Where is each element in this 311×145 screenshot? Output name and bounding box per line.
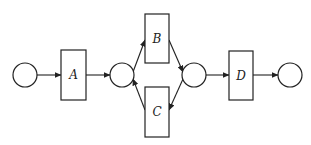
transition-C-label: C (152, 105, 161, 119)
arc-p3-to-C (169, 79, 183, 110)
arc-C-to-p2 (133, 79, 145, 110)
place-p1 (13, 63, 37, 87)
transition-B-label: B (152, 32, 162, 46)
petri-net-diagram: A B C D (0, 0, 311, 145)
transition-D-label: D (235, 69, 246, 83)
place-p3 (182, 63, 206, 87)
place-p2 (110, 63, 134, 87)
arc-B-to-p3 (169, 40, 183, 72)
transition-A-label: A (68, 68, 78, 82)
arc-p2-to-B (133, 40, 145, 72)
place-p4 (278, 63, 302, 87)
